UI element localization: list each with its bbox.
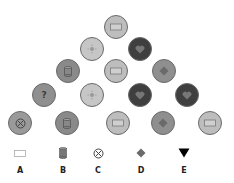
option-b[interactable]: B bbox=[51, 146, 75, 160]
rectangle-icon bbox=[204, 119, 216, 127]
rectangle-icon bbox=[8, 146, 32, 160]
heart-icon bbox=[135, 45, 145, 54]
puzzle-circle bbox=[152, 59, 176, 83]
option-label: D bbox=[129, 166, 153, 175]
option-a[interactable]: A bbox=[8, 146, 32, 160]
option-label: E bbox=[172, 166, 196, 175]
question-icon: ? bbox=[41, 90, 46, 100]
rectangle-icon bbox=[112, 119, 124, 127]
diamond-icon bbox=[129, 146, 153, 160]
puzzle-circle bbox=[198, 111, 222, 135]
puzzle-circle: ? bbox=[32, 83, 56, 107]
puzzle-circle bbox=[80, 37, 104, 61]
option-d[interactable]: D bbox=[129, 146, 153, 160]
diamond-icon bbox=[159, 66, 169, 76]
puzzle-circle bbox=[151, 111, 175, 135]
puzzle-circle bbox=[106, 111, 130, 135]
triangle-down-icon bbox=[172, 146, 196, 160]
heart-icon bbox=[182, 91, 192, 100]
puzzle-circle bbox=[128, 83, 152, 107]
sun-icon bbox=[87, 90, 97, 100]
option-label: B bbox=[51, 166, 75, 175]
circle-x-icon bbox=[15, 118, 26, 129]
cylinder-icon bbox=[51, 146, 75, 160]
diamond-icon bbox=[158, 118, 168, 128]
sun-icon bbox=[87, 44, 97, 54]
puzzle-circle bbox=[80, 83, 104, 107]
puzzle-circle bbox=[104, 59, 128, 83]
rectangle-icon bbox=[110, 23, 122, 31]
option-label: A bbox=[8, 166, 32, 175]
circle-x-icon bbox=[86, 146, 110, 160]
rectangle-icon bbox=[110, 67, 122, 75]
cylinder-icon bbox=[63, 118, 71, 129]
puzzle-circle bbox=[128, 37, 152, 61]
puzzle-circle bbox=[104, 15, 128, 39]
option-label: C bbox=[86, 166, 110, 175]
puzzle-circle bbox=[55, 111, 79, 135]
puzzle-circle bbox=[56, 59, 80, 83]
option-e[interactable]: E bbox=[172, 146, 196, 160]
heart-icon bbox=[135, 91, 145, 100]
puzzle-circle bbox=[8, 111, 32, 135]
cylinder-icon bbox=[64, 66, 72, 77]
puzzle-circle bbox=[175, 83, 199, 107]
option-c[interactable]: C bbox=[86, 146, 110, 160]
